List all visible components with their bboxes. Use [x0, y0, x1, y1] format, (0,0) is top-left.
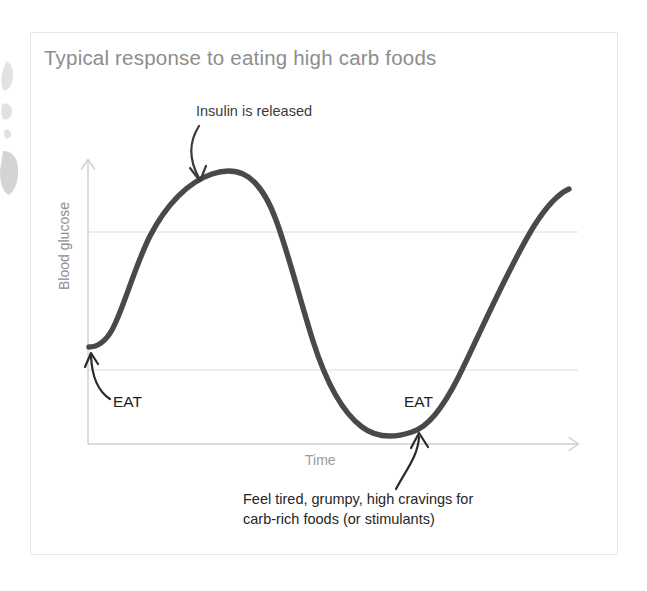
blood-glucose-curve [89, 171, 569, 436]
chart-page: Typical response to eating high carb foo… [0, 0, 647, 591]
eat-first-arrow-line [91, 356, 110, 399]
crash-annotation-arrow-line [396, 437, 419, 489]
chart-graphics [0, 0, 647, 591]
